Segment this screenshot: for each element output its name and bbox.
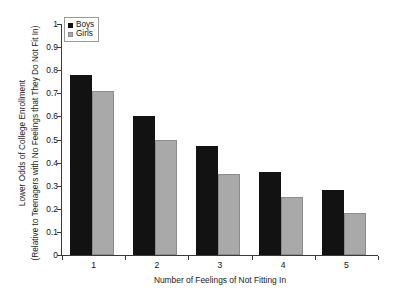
y-tick-mark	[57, 140, 61, 141]
x-tick-label: 5	[344, 261, 349, 270]
bar-girls-5	[344, 213, 366, 255]
x-tick-label: 3	[218, 261, 223, 270]
figure-caption	[16, 293, 406, 300]
bar-girls-4	[281, 197, 303, 255]
bar-boys-4	[259, 172, 281, 255]
x-tick-mark	[315, 256, 316, 260]
bar-boys-3	[196, 146, 218, 255]
x-tick-label: 1	[91, 261, 96, 270]
bar-group	[252, 24, 315, 255]
bar-girls-2	[155, 140, 177, 256]
y-tick-mark	[57, 232, 61, 233]
x-tick-mark	[62, 256, 63, 260]
bar-boys-5	[322, 190, 344, 255]
bar-girls-1	[92, 91, 114, 255]
gray-square-swatch	[68, 32, 73, 37]
y-tick-mark	[57, 255, 61, 256]
bar-chart-figure: Lower Odds of College Enrollment (Relati…	[0, 0, 418, 300]
y-axis-tick-labels: 00.10.20.30.40.50.60.70.80.91	[30, 0, 58, 300]
x-tick-mark	[252, 256, 253, 260]
x-tick-mark	[125, 256, 126, 260]
x-axis-line	[61, 255, 378, 256]
x-tick-label: 4	[281, 261, 286, 270]
y-tick-mark	[57, 70, 61, 71]
bar-group	[188, 24, 251, 255]
bar-boys-1	[70, 75, 92, 255]
y-tick-mark	[57, 93, 61, 94]
chart-legend: BoysGirls	[64, 17, 99, 42]
y-tick-mark	[57, 163, 61, 164]
y-tick-mark	[57, 47, 61, 48]
black-square-swatch	[68, 23, 73, 28]
y-tick-mark	[57, 116, 61, 117]
legend-label: Girls	[76, 30, 93, 38]
plot-area	[62, 24, 378, 255]
y-tick-mark	[57, 24, 61, 25]
bar-group	[125, 24, 188, 255]
bar-group	[62, 24, 125, 255]
x-tick-label: 2	[154, 261, 159, 270]
y-axis-title-line-1: Lower Odds of College Enrollment	[19, 80, 27, 206]
bar-group	[315, 24, 378, 255]
x-tick-mark	[378, 256, 379, 260]
y-tick-mark	[57, 186, 61, 187]
x-tick-mark	[188, 256, 189, 260]
legend-label: Boys	[76, 21, 94, 29]
x-axis-title: Number of Feelings of Not Fitting In	[62, 276, 378, 284]
legend-item-boys[interactable]: Boys	[68, 21, 94, 29]
legend-item-girls[interactable]: Girls	[68, 30, 94, 38]
y-tick-mark	[57, 209, 61, 210]
bar-girls-3	[218, 174, 240, 255]
bar-boys-2	[133, 116, 155, 255]
